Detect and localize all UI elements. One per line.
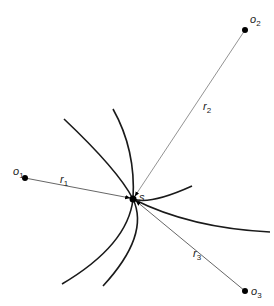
range-line-r1 [25, 178, 130, 198]
point-o3 [242, 288, 248, 294]
range-arc-1 [64, 119, 138, 286]
range-line-r2 [135, 30, 245, 196]
label-s: s [139, 192, 145, 203]
label-r2: r2 [203, 101, 211, 115]
label-o2: o2 [250, 14, 261, 28]
label-r3: r3 [193, 248, 201, 262]
label-o3: o3 [251, 286, 262, 300]
range-line-r3 [136, 201, 245, 291]
label-o1: o1 [13, 166, 24, 180]
point-o2 [242, 27, 248, 33]
trilateration-diagram [0, 0, 274, 306]
label-r1: r1 [60, 174, 68, 188]
point-s [130, 196, 137, 203]
